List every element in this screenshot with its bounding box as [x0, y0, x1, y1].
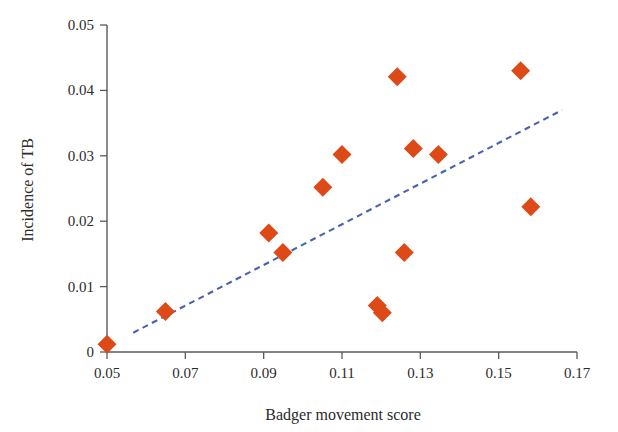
x-tick-label: 0.13	[407, 365, 433, 381]
data-point-marker	[429, 145, 448, 164]
data-point-marker	[156, 302, 175, 321]
chart-page: 0.050.070.090.110.130.150.1700.010.020.0…	[0, 0, 618, 432]
y-tick-label: 0.04	[68, 82, 95, 98]
x-tick-label: 0.05	[94, 365, 120, 381]
y-tick-label: 0.02	[68, 213, 94, 229]
data-point-marker	[98, 335, 117, 354]
x-tick-label: 0.17	[564, 365, 591, 381]
data-points	[98, 61, 541, 353]
y-tick-label: 0	[87, 344, 95, 360]
x-axis-title: Badger movement score	[265, 406, 421, 424]
x-tick-label: 0.11	[329, 365, 355, 381]
y-tick-label: 0.01	[68, 279, 94, 295]
axis-lines	[107, 25, 577, 352]
data-point-marker	[521, 197, 540, 216]
x-tick-label: 0.07	[172, 365, 199, 381]
data-point-marker	[388, 67, 407, 86]
y-tick-label: 0.03	[68, 148, 94, 164]
y-axis-title: Incidence of TB	[19, 138, 36, 242]
data-point-marker	[313, 178, 332, 197]
data-point-marker	[259, 223, 278, 242]
trend-line-segment	[133, 110, 562, 333]
data-point-marker	[333, 145, 352, 164]
scatter-plot: 0.050.070.090.110.130.150.1700.010.020.0…	[0, 0, 618, 432]
data-point-marker	[404, 139, 423, 158]
data-point-marker	[511, 61, 530, 80]
trend-line	[133, 110, 562, 333]
x-tick-label: 0.15	[486, 365, 512, 381]
x-tick-label: 0.09	[251, 365, 277, 381]
data-point-marker	[395, 243, 414, 262]
y-tick-label: 0.05	[68, 17, 94, 33]
